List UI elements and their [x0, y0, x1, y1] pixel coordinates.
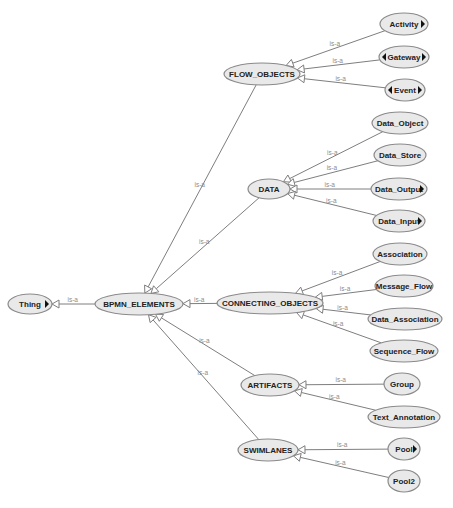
edge-label: is-a: [194, 296, 205, 303]
edge-group-to-artifacts: is-a: [299, 376, 384, 388]
node-label: Activity: [390, 20, 419, 29]
node-label: Message_Flow: [376, 282, 433, 291]
node-data[interactable]: DATA: [248, 179, 290, 199]
node-text-annotation[interactable]: Text_Annotation: [368, 406, 440, 428]
edge-label: is-a: [199, 238, 210, 245]
edge-pool2-to-swimlanes: is-a: [293, 453, 388, 477]
edge-artifacts-to-bpmn_elements: is-a: [155, 314, 254, 375]
node-data-input[interactable]: Data_Input: [373, 210, 425, 232]
edge-pool-to-swimlanes: is-a: [298, 441, 388, 453]
edge-label: is-a: [337, 441, 348, 448]
node-thing[interactable]: Thing: [8, 294, 52, 314]
edge-data-to-bpmn_elements: is-a: [151, 198, 259, 294]
hollow-arrowhead-icon: [298, 446, 305, 454]
edge-label: is-a: [325, 181, 336, 188]
edge-label: is-a: [329, 393, 340, 400]
node-pool2[interactable]: Pool2: [388, 470, 420, 492]
node-message-flow[interactable]: Message_Flow: [375, 275, 433, 297]
edge-connecting_objects-to-bpmn_elements: is-a: [183, 296, 217, 308]
edge-label: is-a: [337, 304, 348, 311]
edge-sequence_flow-to-connecting_objects: is-a: [297, 311, 382, 343]
node-label: Pool2: [393, 477, 415, 486]
node-label: Data_Input: [378, 217, 420, 226]
edge-data_output-to-data: is-a: [290, 181, 371, 193]
edge-bpmn_elements-to-thing: is-a: [52, 296, 95, 308]
nodes-layer: ThingBPMN_ELEMENTSFLOW_OBJECTSDATACONNEC…: [8, 13, 442, 492]
hollow-arrowhead-icon: [155, 314, 163, 321]
node-label: Data_Association: [371, 315, 438, 324]
edge-label: is-a: [198, 369, 209, 376]
node-activity[interactable]: Activity: [380, 13, 428, 35]
hollow-arrowhead-icon: [183, 300, 190, 308]
node-group[interactable]: Group: [384, 373, 420, 395]
node-label: DATA: [258, 185, 279, 194]
edge-line: [161, 318, 254, 376]
edge-event-to-flow_objects: is-a: [297, 75, 385, 88]
edge-label: is-a: [335, 376, 346, 383]
node-label: Data_Object: [377, 119, 424, 128]
node-label: Data_Store: [379, 151, 422, 160]
edge-label: is-a: [327, 149, 338, 156]
edge-label: is-a: [327, 164, 338, 171]
node-label: FLOW_OBJECTS: [229, 70, 295, 79]
node-data-output[interactable]: Data_Output: [371, 178, 427, 200]
edge-data_association-to-connecting_objects: is-a: [316, 304, 371, 315]
edges-layer: is-ais-ais-ais-ais-ais-ais-ais-ais-ais-a…: [52, 31, 389, 478]
node-label: ARTIFACTS: [248, 381, 294, 390]
node-label: Group: [390, 380, 414, 389]
edge-label: is-a: [199, 337, 210, 344]
node-label: Gateway: [388, 53, 421, 62]
edge-label: is-a: [340, 285, 351, 292]
node-swimlanes[interactable]: SWIMLANES: [238, 439, 298, 461]
edge-label: is-a: [330, 40, 341, 47]
node-data-store[interactable]: Data_Store: [374, 144, 426, 166]
edge-data_input-to-data: is-a: [288, 191, 377, 215]
edge-label: is-a: [335, 75, 346, 82]
node-connecting-objects[interactable]: CONNECTING_OBJECTS: [217, 292, 323, 314]
node-label: Sequence_Flow: [374, 347, 435, 356]
node-data-object[interactable]: Data_Object: [372, 112, 428, 134]
edge-line: [306, 384, 384, 385]
edge-flow_objects-to-bpmn_elements: is-a: [145, 85, 257, 293]
edge-label: is-a: [332, 269, 343, 276]
node-data-association[interactable]: Data_Association: [368, 308, 442, 330]
node-label: Association: [377, 250, 422, 259]
node-label: Text_Annotation: [373, 413, 436, 422]
edge-swimlanes-to-bpmn_elements: is-a: [148, 315, 258, 440]
edge-label: is-a: [326, 197, 337, 204]
edge-association-to-connecting_objects: is-a: [296, 261, 381, 294]
hollow-arrowhead-icon: [52, 300, 59, 308]
node-label: SWIMLANES: [244, 446, 294, 455]
edge-data_object-to-data: is-a: [283, 132, 382, 182]
node-artifacts[interactable]: ARTIFACTS: [241, 374, 299, 396]
node-pool[interactable]: Pool: [388, 438, 420, 460]
node-label: Pool: [395, 445, 412, 454]
node-label: Event: [394, 86, 416, 95]
edge-gateway-to-flow_objects: is-a: [297, 57, 380, 73]
edge-text_annotation-to-artifacts: is-a: [295, 389, 376, 411]
node-sequence-flow[interactable]: Sequence_Flow: [370, 340, 438, 362]
edge-label: is-a: [68, 296, 79, 303]
edge-label: is-a: [195, 181, 206, 188]
hollow-arrowhead-icon: [299, 381, 306, 389]
edge-line: [305, 449, 388, 450]
node-label: BPMN_ELEMENTS: [103, 300, 175, 309]
node-association[interactable]: Association: [373, 243, 427, 265]
node-flow-objects[interactable]: FLOW_OBJECTS: [224, 63, 300, 85]
node-bpmn-elements[interactable]: BPMN_ELEMENTS: [95, 293, 183, 315]
edge-label: is-a: [333, 320, 344, 327]
node-label: Thing: [19, 300, 41, 309]
ontology-graph-canvas[interactable]: is-ais-ais-ais-ais-ais-ais-ais-ais-ais-a…: [0, 0, 453, 508]
edge-label: is-a: [335, 459, 346, 466]
node-label: CONNECTING_OBJECTS: [222, 299, 319, 308]
edge-message_flow-to-connecting_objects: is-a: [315, 285, 376, 300]
edge-label: is-a: [332, 57, 343, 64]
node-label: Data_Output: [375, 185, 423, 194]
node-event[interactable]: Event: [385, 79, 425, 101]
node-gateway[interactable]: Gateway: [379, 46, 429, 68]
